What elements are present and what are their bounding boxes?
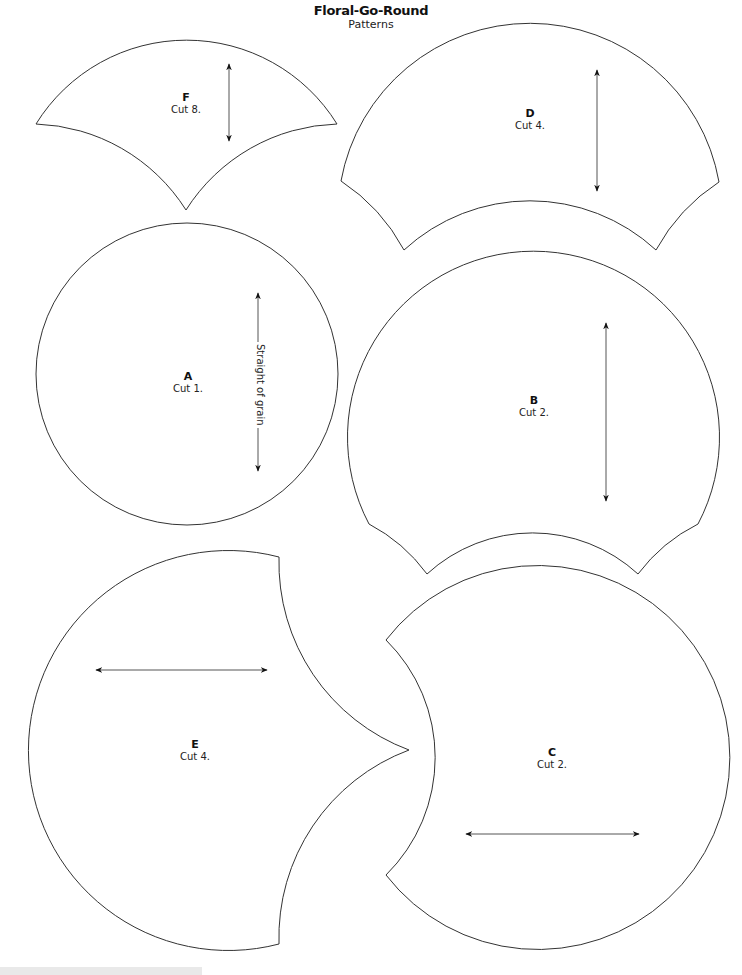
piece-e-label: E Cut 4. [155, 738, 235, 763]
piece-cut-count: Cut 8. [146, 104, 226, 116]
piece-c-label: C Cut 2. [512, 746, 592, 771]
piece-letter: B [494, 394, 574, 407]
pattern-page: Floral-Go-Round Patterns F Cut 8. D Cut … [0, 0, 742, 975]
piece-d-outline [341, 23, 719, 250]
piece-cut-count: Cut 2. [512, 759, 592, 771]
piece-d-label: D Cut 4. [490, 107, 570, 132]
piece-f-label: F Cut 8. [146, 91, 226, 116]
piece-letter: E [155, 738, 235, 751]
piece-letter: F [146, 91, 226, 104]
piece-letter: C [512, 746, 592, 759]
piece-b-label: B Cut 2. [494, 394, 574, 419]
piece-cut-count: Cut 1. [148, 383, 228, 395]
piece-f-outline [36, 40, 337, 210]
pattern-shapes [0, 0, 742, 975]
page-header: Floral-Go-Round Patterns [0, 3, 742, 31]
piece-cut-count: Cut 2. [494, 407, 574, 419]
piece-letter: A [148, 370, 228, 383]
footer-bar [0, 967, 202, 975]
piece-letter: D [490, 107, 570, 120]
page-subtitle: Patterns [0, 18, 742, 31]
grain-direction-label: Straight of grain [255, 342, 266, 428]
piece-f [36, 40, 337, 210]
piece-a-label: A Cut 1. [148, 370, 228, 395]
page-title: Floral-Go-Round [0, 3, 742, 18]
piece-cut-count: Cut 4. [490, 120, 570, 132]
piece-cut-count: Cut 4. [155, 751, 235, 763]
piece-d [341, 23, 719, 250]
